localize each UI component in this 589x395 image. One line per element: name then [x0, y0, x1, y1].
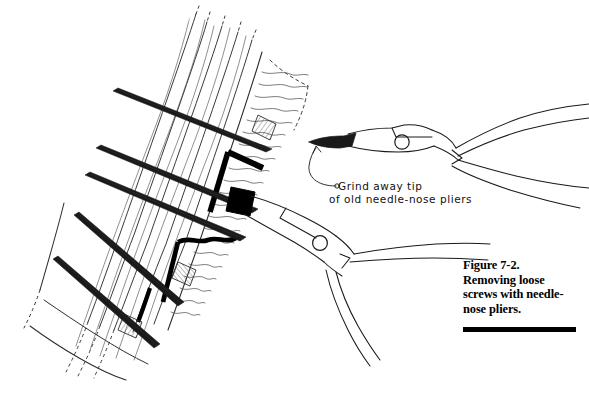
grain-line [209, 216, 246, 219]
grain-line [100, 26, 214, 356]
planking-boards [24, 6, 308, 380]
pliers-lower-jaw-top [250, 196, 336, 236]
pliers-upper-head-bottom [434, 146, 458, 160]
grain-line [224, 180, 263, 183]
annotation-line-2: of old needle-nose pliers [329, 193, 472, 205]
plank-seam-4-dash-top [238, 22, 241, 32]
grain-line [180, 288, 211, 291]
annotation-line-1: Grind away tip [338, 180, 422, 192]
leader-arrow-head [313, 146, 321, 153]
pliers-upper-jaw-top [348, 125, 432, 134]
joint-gap-mid [178, 238, 236, 242]
plank-seam-2-dash-top [207, 12, 210, 22]
caption-rule [463, 327, 576, 332]
pliers-upper-handle-bottom [458, 160, 589, 188]
caption-line-3: nose pliers. [463, 302, 581, 317]
grain-line [259, 84, 307, 87]
caption-number: Figure 7-2. [463, 258, 581, 273]
plank-seam-3-dash-top [222, 16, 225, 26]
pliers-lower [244, 196, 490, 366]
figure-caption: Figure 7-2. Removing loose screws with n… [463, 258, 581, 332]
pliers-lower-joint-notch [340, 254, 350, 268]
loose-screws [53, 88, 272, 348]
joint-gap-upper [228, 152, 263, 168]
leader-arrow-curve [309, 148, 336, 186]
grain-line [229, 168, 269, 171]
board-edge-left-outer-dash [24, 290, 40, 328]
pliers-lower-handle-bottom [336, 272, 380, 360]
pliers-upper-joint-notch [452, 150, 462, 164]
caption-line-2: screws with needle- [463, 287, 581, 302]
board-edge-left-outer [40, 203, 64, 290]
grain-line [262, 72, 308, 75]
pliers-lower-handle-bottom-inner [326, 270, 370, 366]
screw-holes [118, 115, 276, 338]
caption-line-1: Removing loose [463, 273, 581, 288]
technical-illustration [0, 0, 589, 395]
grain-line [255, 96, 303, 99]
screw-hole-middle [172, 262, 196, 286]
pliers-upper-handle-top [456, 104, 589, 148]
plank-seam-1-dash-top [196, 6, 199, 14]
pliers-lower-pivot-icon [313, 236, 328, 251]
board-edge-far-right-dash2 [294, 86, 308, 130]
figure-page: Grind away tip of old needle-nose pliers… [0, 0, 589, 395]
joint-gap-lower [138, 288, 150, 322]
pliers-upper-jaw-bottom [348, 146, 434, 152]
grain-line [189, 264, 222, 267]
gripped-screw-head [226, 187, 255, 216]
grain-line [251, 108, 298, 111]
pliers-lower-handle-top [354, 243, 490, 254]
screw-hole-upper [252, 115, 276, 140]
grain-line [194, 252, 228, 255]
plank-seam-1-dash-bot [66, 322, 88, 372]
plank-seam-2-dash-bot [78, 326, 100, 376]
wood-grain-left [76, 16, 246, 360]
pliers-lower-jaw-step [280, 208, 316, 238]
pliers-upper-handle-top-inner [458, 118, 589, 156]
board-edge-bottom [30, 326, 126, 380]
screw-head-black [226, 187, 255, 216]
plank-seam-5-dash-top [252, 30, 256, 40]
grain-line [171, 312, 200, 315]
pliers-upper-head-top [432, 130, 456, 148]
annotation-leader [309, 146, 339, 188]
pliers-lower-head-top [336, 236, 354, 254]
